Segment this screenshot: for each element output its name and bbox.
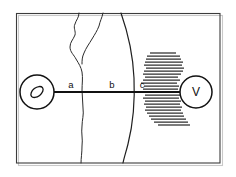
wiggly-branch-fork bbox=[82, 13, 103, 64]
right-node: V bbox=[180, 76, 212, 108]
right-node-label: V bbox=[192, 85, 200, 99]
left-node bbox=[20, 75, 54, 109]
segment-label-a: a bbox=[68, 79, 74, 90]
smooth-arc-curve bbox=[121, 13, 134, 163]
segment-label-c: c bbox=[140, 79, 145, 90]
diagram-canvas: V a b c bbox=[0, 0, 236, 177]
figure-root: V a b c bbox=[0, 0, 236, 177]
segment-label-b: b bbox=[109, 79, 114, 90]
